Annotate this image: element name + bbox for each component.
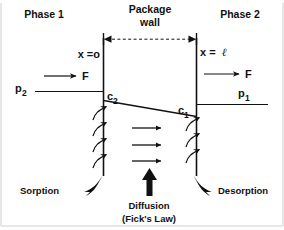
desorption-callout-arrow: [193, 175, 212, 196]
diagram-canvas: Phase 1 Phase 2 Package wall x =o x = ℓ …: [0, 0, 284, 230]
diffusion-label-line1: Diffusion: [128, 200, 169, 211]
right-wall-position-prefix: x =: [200, 46, 216, 58]
sorption-label: Sorption: [20, 185, 59, 196]
right-pressure-subscript: 1: [245, 93, 250, 103]
phase-1-label: Phase 1: [24, 8, 64, 20]
right-wall-position-label: x = ℓ: [200, 46, 227, 58]
right-flux-label: F: [245, 68, 252, 80]
phase-2-label: Phase 2: [220, 8, 260, 20]
diffusion-arrows: [132, 128, 161, 161]
diffusion-callout-arrow: [142, 168, 157, 196]
left-concentration-label: c 2: [107, 90, 118, 106]
left-wall-position-label: x =o: [78, 48, 101, 60]
desorption-label: Desorption: [218, 185, 268, 196]
wall-width-dimension: [104, 33, 197, 45]
dim-arrowhead-right: [189, 36, 197, 43]
right-pressure-label: p 1: [238, 87, 250, 103]
right-concentration-subscript: 1: [184, 110, 189, 120]
left-flux-label: F: [82, 70, 89, 82]
sorption-callout-arrow: [84, 175, 103, 196]
left-pressure-label: p 2: [15, 82, 27, 98]
pressure-baselines: [35, 92, 268, 105]
package-wall-label-line1: Package: [129, 3, 172, 15]
right-wall-position-symbol: ℓ: [222, 46, 227, 58]
right-concentration-label: c 1: [178, 104, 189, 120]
left-concentration-subscript: 2: [113, 96, 118, 106]
left-pressure-subscript: 2: [22, 88, 27, 98]
desorption-hook-arrows: [186, 118, 200, 164]
dim-arrowhead-left: [104, 36, 112, 43]
package-wall-label-line2: wall: [139, 16, 160, 28]
left-pressure-base: p: [15, 82, 22, 94]
flux-arrows: [44, 74, 239, 76]
permeation-diagram: Phase 1 Phase 2 Package wall x =o x = ℓ …: [0, 0, 284, 230]
diffusion-label-line2: (Fick's Law): [122, 213, 176, 224]
sorption-hook-arrows: [93, 107, 107, 169]
right-pressure-base: p: [238, 87, 245, 99]
